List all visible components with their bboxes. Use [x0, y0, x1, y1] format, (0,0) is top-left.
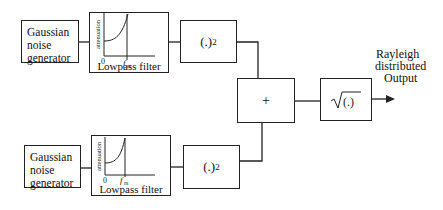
output-label-line: Output — [375, 72, 426, 84]
output-arrow-icon — [386, 95, 395, 103]
square-root-block: (.) — [320, 78, 372, 121]
lowpass-filter-bottom: Lowpass filter — [91, 135, 171, 196]
squarer-base: (.) — [203, 159, 215, 175]
adder-block: + — [237, 78, 295, 123]
squarer-bottom: (.)2 — [183, 145, 240, 189]
plus-icon: + — [262, 93, 270, 109]
generator-label: noise — [30, 164, 80, 177]
gaussian-noise-generator-bottom: Gaussian noise generator — [24, 145, 81, 188]
lowpass-filter-label: Lowpass filter — [90, 60, 168, 72]
gaussian-noise-generator-top: Gaussian noise generator — [21, 20, 79, 63]
lowpass-filter-top: Lowpass filter — [89, 12, 169, 73]
generator-label: Gaussian — [30, 151, 80, 164]
squarer-exponent: 2 — [212, 37, 217, 47]
generator-label: generator — [30, 177, 80, 190]
generator-label: generator — [27, 52, 78, 65]
generator-label: noise — [27, 39, 78, 52]
squarer-exponent: 2 — [215, 162, 220, 172]
output-label: Rayleigh distributed Output — [369, 48, 426, 84]
squarer-base: (.) — [200, 34, 212, 50]
generator-label: Gaussian — [27, 26, 78, 39]
svg-text:(.): (.) — [343, 95, 354, 109]
squarer-top: (.)2 — [180, 20, 237, 63]
square-root-icon: (.) — [329, 90, 363, 110]
lowpass-filter-label: Lowpass filter — [92, 183, 170, 195]
